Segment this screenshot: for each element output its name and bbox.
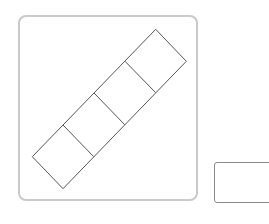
answer-input-box[interactable] bbox=[214, 162, 269, 203]
figure-panel bbox=[18, 15, 198, 201]
